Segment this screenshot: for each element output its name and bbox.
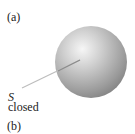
panel-a-label: (a) [7, 11, 20, 23]
surface-caption: closed [8, 101, 39, 113]
panel-b-label: (b) [7, 120, 21, 132]
closed-surface-sphere [55, 26, 127, 98]
